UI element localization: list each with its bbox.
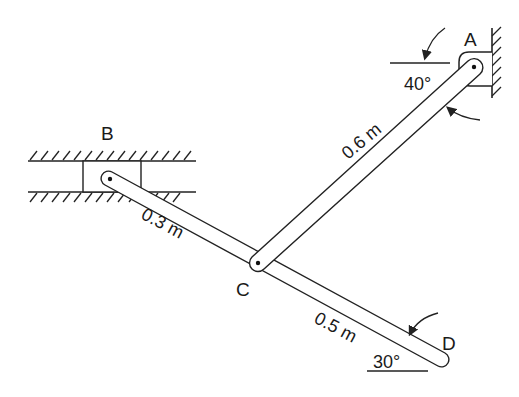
- label-C: C: [236, 279, 250, 300]
- angle-label-D: 30°: [373, 352, 400, 372]
- pin-A: [472, 65, 476, 69]
- mechanism-diagram: A B C D 40° 30° 0.6 m 0.3 m 0.5 m: [0, 0, 519, 397]
- link-AC: [250, 59, 483, 272]
- label-A: A: [464, 29, 477, 50]
- pin-C: [256, 261, 260, 265]
- link-BD: [101, 171, 449, 367]
- label-B: B: [101, 123, 114, 144]
- angle-label-A: 40°: [404, 74, 431, 94]
- pin-B: [108, 177, 112, 181]
- label-D: D: [442, 333, 456, 354]
